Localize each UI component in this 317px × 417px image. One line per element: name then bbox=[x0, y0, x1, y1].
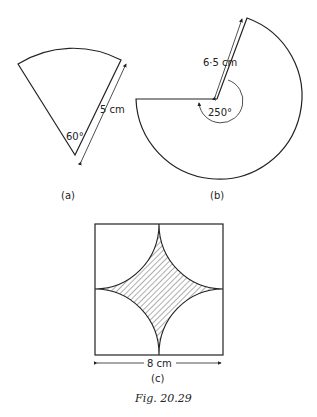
panel-c: 8 cm (c) Fig. 20.29 bbox=[95, 224, 223, 405]
sector-b bbox=[136, 18, 302, 179]
panel-a: 5 cm 60° (a) bbox=[18, 48, 126, 201]
radius-label-b: 6·5 cm bbox=[203, 57, 237, 68]
angle-label-b: 250° bbox=[208, 107, 232, 118]
angle-label-a: 60° bbox=[66, 131, 84, 142]
figure-canvas: 5 cm 60° (a) 6·5 cm 250° (b) 8 cm (c) Fi… bbox=[0, 0, 317, 417]
panel-label-a: (a) bbox=[61, 190, 75, 201]
radius-label-a: 5 cm bbox=[100, 104, 125, 115]
panel-b: 6·5 cm 250° (b) bbox=[136, 18, 302, 201]
panel-label-b: (b) bbox=[210, 190, 224, 201]
shaded-region bbox=[95, 224, 223, 355]
side-label-c: 8 cm bbox=[147, 358, 172, 369]
panel-label-c: (c) bbox=[151, 373, 164, 384]
figure-caption: Fig. 20.29 bbox=[134, 392, 192, 405]
